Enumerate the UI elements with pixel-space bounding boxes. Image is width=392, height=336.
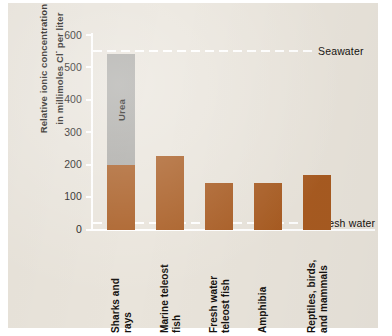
bar-segment-ion-fresh-water-teleost-fish xyxy=(205,183,233,230)
bar-fresh-water-teleost-fish[interactable] xyxy=(205,183,233,230)
plot-area: Relative ionic concentration in millimol… xyxy=(8,3,378,328)
bar-reptiles-birds-and-mammals[interactable] xyxy=(303,175,331,230)
x-tick-label-marine-teleost-fish: Marine teleost fish xyxy=(159,237,182,333)
urea-segment-label: Urea xyxy=(116,99,127,121)
x-tick-label-sharks-and-rays: Sharks and rays xyxy=(110,237,133,333)
bar-segment-ion-marine-teleost-fish xyxy=(156,156,184,230)
x-tick-label-fresh-water-teleost-fish: Fresh water teleost fish xyxy=(208,237,231,333)
x-tick-label-reptiles-birds-and-mammals: Reptiles, birds, and mammals xyxy=(306,237,329,333)
bar-marine-teleost-fish[interactable] xyxy=(156,156,184,230)
bar-segment-ion-amphibia xyxy=(254,183,282,230)
chart-plate: Relative ionic concentration in millimol… xyxy=(8,3,378,328)
bar-segment-ion-reptiles-birds-and-mammals xyxy=(303,175,331,230)
bar-segment-ion-sharks-and-rays xyxy=(107,165,135,230)
figure: Relative ionic concentration in millimol… xyxy=(0,0,392,336)
bars-group: Urea xyxy=(8,3,378,230)
x-tick-label-amphibia: Amphibia xyxy=(257,237,269,333)
bar-amphibia[interactable] xyxy=(254,183,282,230)
bar-segment-urea-sharks-and-rays: Urea xyxy=(107,54,135,165)
bar-sharks-and-rays[interactable]: Urea xyxy=(107,54,135,230)
